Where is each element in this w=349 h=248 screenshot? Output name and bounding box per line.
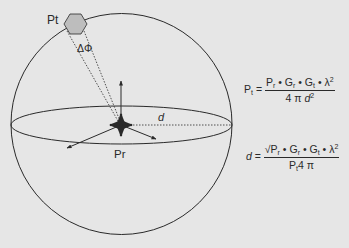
down-left-arrow	[67, 125, 121, 148]
angle-label: ΔΦ	[77, 42, 92, 54]
formula-denominator: 4 π d2	[265, 91, 335, 104]
sphere-diagram	[0, 0, 349, 248]
formula-fraction: √Pr • Gr • Gt • λ2 Pt4 π	[264, 143, 339, 172]
formula-numerator: √Pr • Gr • Gt • λ2	[264, 143, 339, 158]
down-right-arrow	[121, 125, 156, 139]
distance-label: d	[158, 111, 164, 123]
formula-fraction: Pr • Gr • Gt • λ2 4 π d2	[265, 76, 335, 104]
formula-lhs: d =	[246, 150, 264, 162]
transmit-power-formula: Pt = Pr • Gr • Gt • λ2 4 π d2	[244, 76, 335, 104]
formula-numerator: Pr • Gr • Gt • λ2	[265, 76, 335, 91]
transmitter-label: Pt	[47, 13, 58, 27]
formula-denominator: Pt4 π	[264, 158, 339, 172]
receiver-label: Pr	[114, 148, 126, 160]
distance-formula: d = √Pr • Gr • Gt • λ2 Pt4 π	[246, 143, 339, 172]
receiver-cross-icon	[110, 114, 132, 136]
formula-lhs: Pt =	[244, 83, 265, 95]
